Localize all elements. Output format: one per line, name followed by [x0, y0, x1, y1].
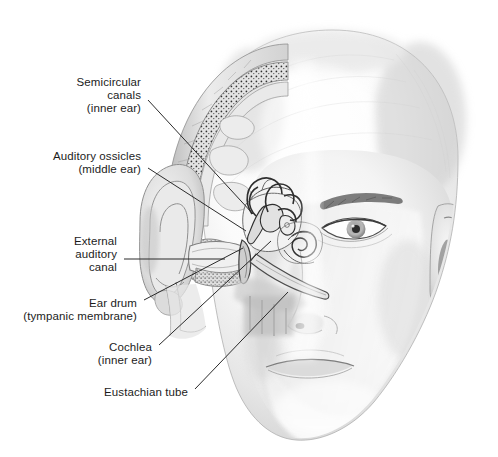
label-eustachian-tube: Eustachian tube [0, 386, 188, 399]
label-line-1: Auditory ossicles [0, 150, 141, 163]
label-cochlea: Cochlea (inner ear) [0, 341, 152, 367]
label-line-1: Semicircular [0, 76, 141, 89]
label-line-2: (middle ear) [0, 163, 141, 176]
label-line-3: canal [0, 261, 117, 274]
ear-anatomy-figure: Semicircular canals (inner ear) Auditory… [0, 0, 498, 457]
label-auditory-ossicles: Auditory ossicles (middle ear) [0, 150, 141, 176]
label-line-1: External [0, 235, 117, 248]
label-line-2: canals [0, 89, 141, 102]
label-line-1: Cochlea [0, 341, 152, 354]
label-line-3: (inner ear) [0, 102, 141, 115]
label-line-2: (inner ear) [0, 354, 152, 367]
label-line-2: auditory [0, 248, 117, 261]
right-ear [430, 204, 472, 308]
label-semicircular-canals: Semicircular canals (inner ear) [0, 76, 141, 116]
label-line-1: Eustachian tube [0, 386, 188, 399]
label-external-auditory-canal: External auditory canal [0, 235, 117, 275]
label-line-1: Ear drum [0, 297, 137, 310]
label-ear-drum: Ear drum (tympanic membrane) [0, 297, 137, 323]
label-line-2: (tympanic membrane) [0, 310, 137, 323]
